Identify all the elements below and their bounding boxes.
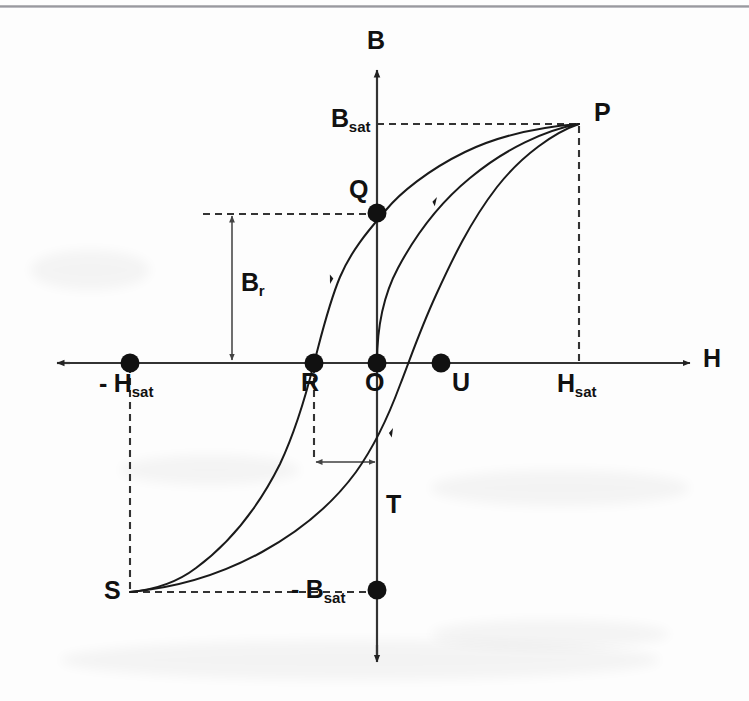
h-sat-label: Hsat [557, 371, 597, 396]
arrow-initial-curve-icon [431, 196, 440, 206]
neg-h-sat-label: - Hsat [99, 371, 153, 396]
h-sat-label-base: H [557, 369, 575, 397]
arrow-descending-branch-icon [327, 274, 334, 284]
br-label-sub: r [259, 282, 265, 299]
br-label: Br [241, 270, 265, 295]
b-sat-label: Bsat [331, 106, 371, 131]
point-label-P: P [594, 100, 610, 125]
point-label-R: R [301, 370, 319, 395]
point-label-U: U [452, 370, 470, 395]
neg-b-sat-dot[interactable] [368, 581, 387, 600]
direction-arrow-group [327, 196, 440, 437]
neg-h-sat-label-sub: sat [132, 383, 154, 400]
b-sat-label-base: B [331, 104, 349, 132]
neg-b-sat-label: - Bsat [291, 577, 345, 602]
point-label-S: S [104, 578, 120, 603]
point-label-T: T [386, 492, 401, 517]
point-label-Q: Q [349, 177, 368, 202]
y-axis-label: B [367, 28, 385, 53]
point-dot-Q[interactable] [368, 204, 387, 223]
point-label-O: O [365, 370, 384, 395]
initial-magnetization-curve [377, 124, 579, 363]
br-label-base: B [241, 268, 259, 296]
x-axis-label: H [703, 346, 721, 371]
neg-b-sat-label-base: - B [291, 575, 324, 603]
b-sat-label-sub: sat [349, 118, 371, 135]
arrow-ascending-branch-icon [388, 427, 396, 437]
neg-h-sat-label-base: - H [99, 369, 132, 397]
neg-b-sat-label-sub: sat [324, 589, 346, 606]
hysteresis-figure: B H Bsat - Bsat Hsat - Hsat Br P Q R O U… [0, 0, 749, 701]
h-sat-label-sub: sat [575, 383, 597, 400]
point-dot-U[interactable] [432, 354, 451, 373]
